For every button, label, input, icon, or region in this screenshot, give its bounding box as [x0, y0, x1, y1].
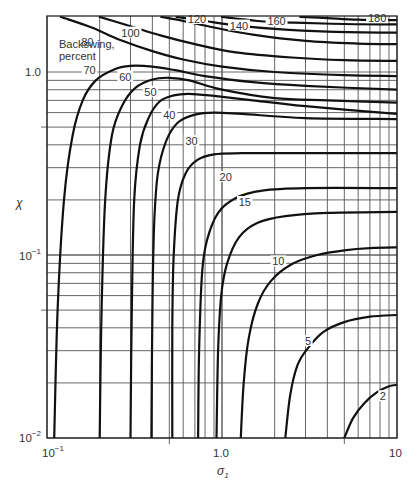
curve-label-180: 180: [368, 12, 386, 24]
curve-40: [151, 113, 397, 438]
curve-label-20: 20: [220, 171, 232, 183]
curve-label-160: 160: [267, 15, 285, 27]
curve-70: [54, 66, 397, 438]
y-tick-0.1: 10−1: [19, 247, 41, 262]
curve-labels: 25101520304050607080100120140160180: [80, 12, 389, 402]
y-tick-1: 1.0: [25, 66, 41, 78]
grid-lines: [41, 16, 397, 444]
curve-label-40: 40: [163, 109, 175, 121]
curve-label-60: 60: [119, 71, 131, 83]
curve-label-15: 15: [239, 196, 251, 208]
x-axis-title: σ1: [217, 464, 229, 480]
curve-label-10: 10: [272, 255, 284, 267]
y-axis-title: χ: [15, 196, 23, 210]
curve-50: [131, 94, 398, 438]
curve-label-120: 120: [188, 13, 206, 25]
curve-label-100: 100: [121, 27, 139, 39]
curve-label-5: 5: [305, 335, 311, 347]
curve-label-2: 2: [380, 390, 386, 402]
curve-10: [241, 247, 397, 438]
y-tick-0.01: 10−2: [19, 429, 41, 444]
curve-label-30: 30: [185, 135, 197, 147]
curve-label-140: 140: [230, 20, 248, 32]
backswing-chart: 25101520304050607080100120140160180 Back…: [0, 0, 417, 484]
x-tick-0.1: 10−1: [42, 444, 64, 459]
x-tick-10: 10: [389, 447, 402, 459]
x-tick-1: 1.0: [213, 447, 229, 459]
curve-label-70: 70: [83, 64, 95, 76]
curve-label-50: 50: [144, 86, 156, 98]
legend-title-line2: percent: [59, 50, 96, 62]
legend-title-line1: Backswing,: [59, 38, 115, 50]
